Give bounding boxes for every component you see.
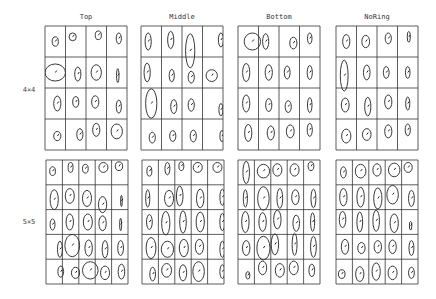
center-marker — [71, 165, 73, 167]
center-marker — [295, 195, 297, 197]
center-marker — [148, 40, 150, 42]
center-marker — [378, 245, 380, 247]
center-marker — [376, 270, 378, 272]
ellipse — [373, 210, 380, 231]
center-marker — [70, 220, 72, 222]
center-marker — [53, 169, 55, 171]
center-marker — [57, 134, 59, 136]
ellipse — [115, 162, 122, 171]
center-marker — [78, 72, 80, 74]
ellipse — [257, 236, 270, 260]
center-marker — [119, 105, 121, 107]
center-marker — [343, 170, 345, 172]
center-marker — [70, 194, 72, 196]
center-marker — [87, 196, 89, 198]
center-marker — [366, 40, 368, 42]
center-marker — [275, 242, 277, 244]
center-marker — [183, 271, 185, 273]
center-marker — [103, 165, 105, 167]
ellipse — [169, 69, 174, 81]
center-marker — [266, 40, 268, 42]
center-marker — [169, 196, 171, 198]
center-marker — [361, 246, 363, 248]
center-marker — [386, 71, 388, 73]
center-marker — [117, 129, 119, 131]
center-marker — [221, 38, 223, 40]
center-marker — [246, 246, 248, 248]
center-marker — [393, 271, 395, 273]
center-marker — [245, 220, 247, 222]
panel-top-5x5 — [46, 160, 128, 284]
center-marker — [367, 133, 369, 135]
center-marker — [174, 105, 176, 107]
center-marker — [245, 196, 247, 198]
center-marker — [408, 128, 410, 130]
panel-middle-5x5 — [142, 160, 225, 284]
center-marker — [345, 103, 347, 105]
center-marker — [190, 49, 192, 51]
center-marker — [173, 134, 175, 136]
ellipse — [388, 266, 397, 280]
center-marker — [96, 128, 98, 130]
center-marker — [246, 71, 248, 73]
center-marker — [388, 100, 390, 102]
center-marker — [411, 196, 413, 198]
center-marker — [119, 36, 121, 38]
center-marker — [121, 246, 123, 248]
center-marker — [263, 169, 265, 171]
center-marker — [367, 71, 369, 73]
center-marker — [393, 193, 395, 195]
ellipse — [385, 33, 391, 44]
ellipse — [409, 267, 415, 278]
center-marker — [96, 71, 98, 73]
ellipse — [54, 96, 61, 111]
center-marker — [72, 244, 74, 246]
ellipse — [117, 69, 119, 83]
center-marker — [360, 220, 362, 222]
panel-noring-5x5 — [336, 160, 418, 284]
center-marker — [199, 270, 201, 272]
center-marker — [345, 245, 347, 247]
center-marker — [147, 71, 149, 73]
center-marker — [191, 103, 193, 105]
center-marker — [388, 36, 390, 38]
center-marker — [294, 266, 296, 268]
center-marker — [408, 165, 410, 167]
center-marker — [313, 220, 315, 222]
center-marker — [376, 219, 378, 221]
center-marker — [280, 268, 282, 270]
center-marker — [342, 272, 344, 274]
center-marker — [105, 271, 107, 273]
center-marker — [343, 195, 345, 197]
ellipse — [165, 162, 170, 174]
center-marker — [199, 245, 201, 247]
center-marker — [310, 128, 312, 130]
panel-top-4x4 — [45, 26, 127, 150]
center-marker — [378, 196, 380, 198]
center-marker — [152, 136, 154, 138]
center-marker — [277, 218, 279, 220]
center-marker — [98, 33, 100, 35]
ellipse — [290, 164, 299, 176]
center-marker — [346, 134, 348, 136]
panel-noring-4x4 — [336, 26, 418, 150]
center-marker — [377, 168, 379, 170]
center-marker — [85, 167, 87, 169]
center-marker — [248, 273, 250, 275]
center-marker — [73, 35, 75, 37]
center-marker — [263, 266, 265, 268]
center-marker — [408, 71, 410, 73]
center-marker — [280, 196, 282, 198]
panel-bottom-4x4 — [238, 26, 320, 150]
ellipse — [54, 131, 61, 140]
center-marker — [310, 71, 312, 73]
center-marker — [57, 102, 59, 104]
center-marker — [310, 36, 312, 38]
center-marker — [89, 246, 91, 248]
ellipse — [118, 241, 124, 256]
center-marker — [184, 246, 186, 248]
center-marker — [200, 220, 202, 222]
panel-bottom-5x5 — [238, 160, 320, 284]
center-marker — [183, 220, 185, 222]
center-marker — [269, 71, 271, 73]
